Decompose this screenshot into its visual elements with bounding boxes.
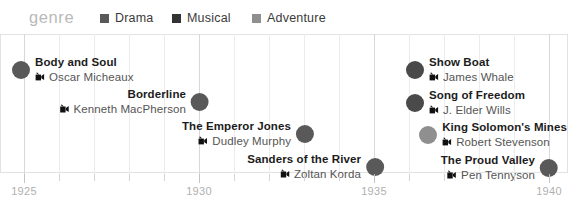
axis-tick-label: 1925 — [11, 185, 37, 197]
axis-tick-minor — [409, 174, 410, 181]
film-genre-dot[interactable] — [191, 93, 209, 111]
film-title: The Proud Valley — [441, 154, 535, 168]
legend-entry-label: Adventure — [267, 11, 326, 25]
film-label: The Emperor JonesDudley Murphy — [182, 120, 291, 148]
movie-camera-icon — [429, 105, 439, 115]
legend-swatch-icon — [252, 14, 261, 23]
axis-tick-major — [199, 174, 200, 183]
axis-tick-minor — [444, 174, 445, 181]
film-director-row: J. Elder Wills — [429, 104, 525, 118]
film-director: Dudley Murphy — [212, 135, 291, 149]
film-title: Song of Freedom — [429, 89, 525, 103]
film-director: Kenneth MacPherson — [74, 103, 186, 117]
film-title: Show Boat — [429, 56, 514, 70]
gridline-minor — [234, 34, 235, 174]
film-title: The Emperor Jones — [182, 120, 291, 134]
film-director-row: Kenneth MacPherson — [60, 103, 186, 117]
film-marker[interactable]: Song of FreedomJ. Elder Wills — [406, 87, 525, 119]
axis-tick-minor — [59, 174, 60, 181]
axis-tick-minor — [234, 174, 235, 181]
axis-tick-label: 1935 — [361, 185, 387, 197]
legend-swatch-icon — [100, 14, 109, 23]
film-marker[interactable]: BorderlineKenneth MacPherson — [60, 86, 209, 118]
axis-tick-label: 1930 — [186, 185, 212, 197]
genre-timeline-chart: genre DramaMusicalAdventure Body and Sou… — [0, 0, 569, 206]
legend-swatch-icon — [172, 14, 181, 23]
film-label: King Solomon's MinesRobert Stevenson — [442, 121, 567, 149]
movie-camera-icon — [35, 72, 45, 82]
film-genre-dot[interactable] — [406, 94, 424, 112]
film-marker[interactable]: King Solomon's MinesRobert Stevenson — [419, 119, 567, 151]
x-axis: 1925193019351940 — [0, 174, 569, 206]
film-director: J. Elder Wills — [443, 104, 511, 118]
film-marker[interactable]: The Emperor JonesDudley Murphy — [182, 118, 314, 150]
film-title: Body and Soul — [35, 56, 133, 70]
axis-tick-minor — [339, 174, 340, 181]
film-director: Robert Stevenson — [456, 136, 550, 150]
legend-title: genre — [29, 8, 74, 27]
legend-entry-label: Musical — [187, 11, 231, 25]
axis-tick-minor — [94, 174, 95, 181]
axis-tick-minor — [164, 174, 165, 181]
movie-camera-icon — [198, 136, 208, 146]
film-director-row: Dudley Murphy — [182, 135, 291, 149]
axis-tick-minor — [514, 174, 515, 181]
film-director-row: James Whale — [429, 71, 514, 85]
film-genre-dot[interactable] — [419, 126, 437, 144]
film-label: Song of FreedomJ. Elder Wills — [429, 89, 525, 117]
film-genre-dot[interactable] — [12, 61, 30, 79]
plot-area: Body and SoulOscar MicheauxBorderlineKen… — [0, 34, 569, 174]
film-genre-dot[interactable] — [296, 125, 314, 143]
legend-entry-musical[interactable]: Musical — [172, 11, 231, 25]
axis-tick-minor — [269, 174, 270, 181]
axis-tick-major — [549, 174, 550, 183]
film-genre-dot[interactable] — [406, 61, 424, 79]
film-label: Show BoatJames Whale — [429, 56, 514, 84]
axis-tick-major — [374, 174, 375, 183]
legend-entry-drama[interactable]: Drama — [100, 11, 154, 25]
film-marker[interactable]: Show BoatJames Whale — [406, 54, 514, 86]
film-marker[interactable]: Body and SoulOscar Micheaux — [12, 54, 133, 86]
legend-entry-label: Drama — [115, 11, 154, 25]
chart-legend-header: genre DramaMusicalAdventure — [0, 0, 569, 34]
movie-camera-icon — [429, 72, 439, 82]
legend-entry-adventure[interactable]: Adventure — [252, 11, 326, 25]
axis-tick-label: 1940 — [536, 185, 562, 197]
axis-tick-major — [24, 174, 25, 183]
film-director: Oscar Micheaux — [49, 71, 133, 85]
movie-camera-icon — [442, 137, 452, 147]
film-title: King Solomon's Mines — [442, 121, 567, 135]
film-title: Sanders of the River — [247, 153, 361, 167]
axis-tick-minor — [304, 174, 305, 181]
film-director: James Whale — [443, 71, 514, 85]
axis-tick-minor — [479, 174, 480, 181]
film-label: BorderlineKenneth MacPherson — [60, 88, 186, 116]
film-label: Body and SoulOscar Micheaux — [35, 56, 133, 84]
film-director-row: Oscar Micheaux — [35, 71, 133, 85]
axis-tick-minor — [129, 174, 130, 181]
movie-camera-icon — [60, 104, 70, 114]
film-title: Borderline — [60, 88, 186, 102]
film-director-row: Robert Stevenson — [442, 136, 567, 150]
